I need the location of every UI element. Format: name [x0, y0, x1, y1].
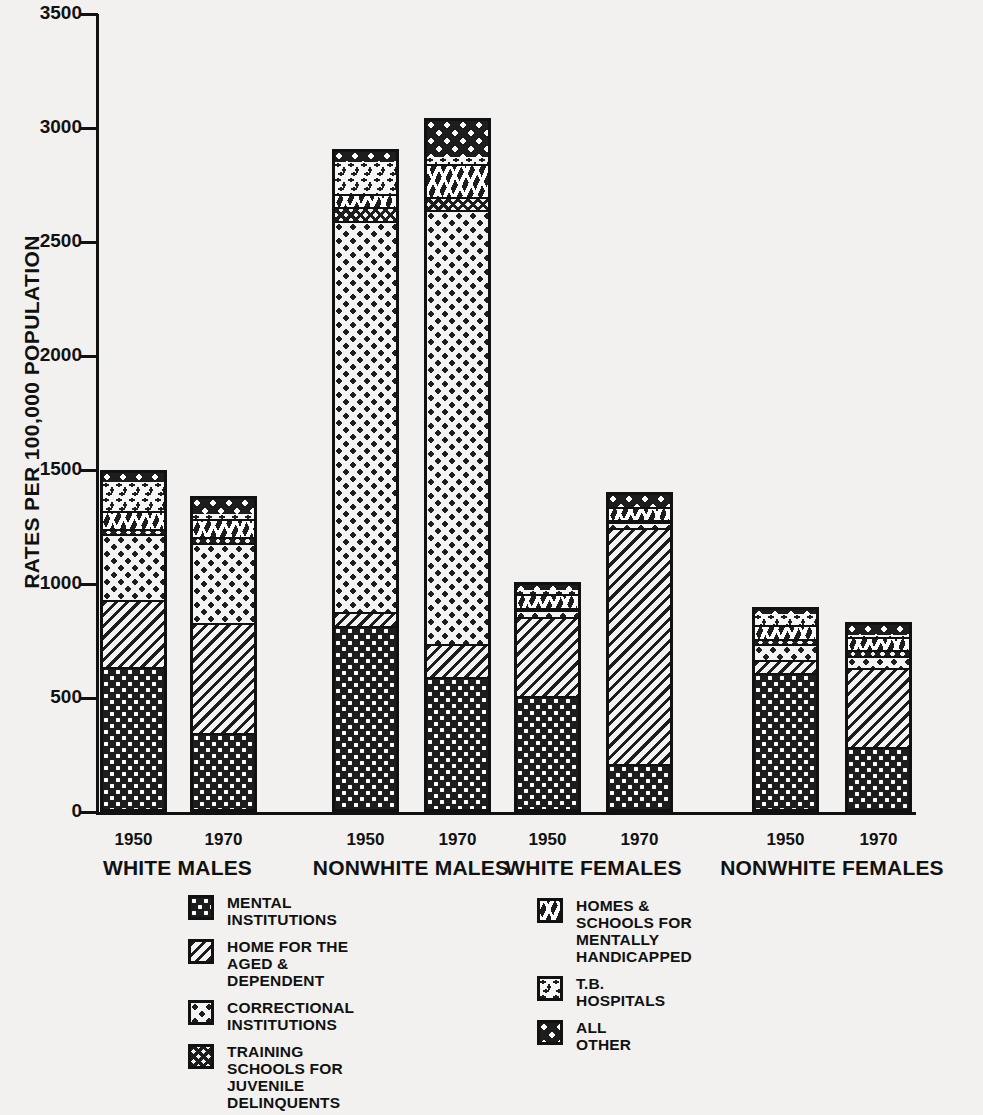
bar-segment-mental — [335, 628, 396, 812]
bar-nonwhite-females-1970 — [845, 622, 912, 812]
y-tick-label: 2500 — [40, 230, 82, 252]
bar-segment-mental — [427, 679, 488, 812]
bar-segment-all — [427, 121, 488, 157]
bar-segment-correctional — [755, 646, 816, 662]
y-tick-label: 2000 — [40, 344, 82, 366]
bar-white-females-1950 — [514, 582, 581, 812]
bar-segment-correctional — [427, 212, 488, 646]
bar-segment-all — [848, 625, 909, 635]
y-axis-title: RATES PER 100,000 POPULATION — [20, 192, 44, 632]
legend-label: TRAINING SCHOOLS FOR JUVENILE DELINQUENT… — [227, 1042, 354, 1111]
bar-segment-aged — [609, 530, 670, 766]
legend-swatch-correctional-icon — [188, 1000, 214, 1025]
legend-item[interactable]: ALL OTHER — [537, 1018, 692, 1053]
bar-segment-training — [335, 209, 396, 224]
bar-segment-mental — [193, 735, 254, 812]
y-tick-label: 1000 — [40, 572, 82, 594]
legend-swatch-tb-icon — [537, 976, 563, 1001]
bar-segment-correctional — [517, 612, 578, 619]
bar-segment-all — [609, 495, 670, 508]
bar-segment-homes — [755, 627, 816, 641]
bar-segment-training — [427, 199, 488, 212]
x-year-label: 1970 — [177, 830, 270, 850]
bar-segment-all — [335, 152, 396, 162]
bar-segment-homes — [848, 639, 909, 652]
legend-item[interactable]: HOME FOR THE AGED & DEPENDENT — [188, 937, 354, 989]
legend-swatch-training-icon — [188, 1044, 214, 1069]
legend-item[interactable]: HOMES & SCHOOLS FOR MENTALLY HANDICAPPED — [537, 896, 692, 965]
bar-white-males-1950 — [100, 470, 167, 812]
legend-swatch-mental-icon — [188, 895, 214, 920]
x-year-label: 1970 — [593, 830, 686, 850]
legend-label: MENTAL INSTITUTIONS — [227, 893, 337, 928]
y-tick-label: 500 — [50, 686, 82, 708]
bar-segment-aged — [103, 602, 164, 669]
y-tick-label: 1500 — [40, 458, 82, 480]
legend-swatch-homes-icon — [537, 898, 563, 923]
y-tick-label: 3000 — [40, 116, 82, 138]
bar-nonwhite-males-1950 — [332, 149, 399, 812]
bar-segment-tb — [755, 614, 816, 627]
bar-segment-all — [103, 473, 164, 482]
bar-segment-aged — [848, 670, 909, 749]
bar-segment-tb — [193, 514, 254, 521]
y-axis-spine — [96, 14, 99, 815]
bar-segment-mental — [609, 766, 670, 812]
bar-segment-correctional — [193, 545, 254, 625]
bar-segment-mental — [848, 749, 909, 812]
bar-segment-homes — [335, 196, 396, 209]
bar-segment-homes — [517, 596, 578, 610]
legend-label: ALL OTHER — [576, 1018, 631, 1053]
x-year-label: 1950 — [501, 830, 594, 850]
bar-segment-mental — [103, 669, 164, 812]
bar-segment-aged — [517, 619, 578, 698]
x-year-label: 1950 — [87, 830, 180, 850]
x-year-label: 1950 — [319, 830, 412, 850]
legend-item[interactable]: T.B. HOSPITALS — [537, 974, 692, 1009]
x-year-label: 1970 — [832, 830, 925, 850]
bar-segment-aged — [427, 646, 488, 679]
legend-label: CORRECTIONAL INSTITUTIONS — [227, 998, 354, 1033]
bar-segment-homes — [103, 513, 164, 531]
bar-segment-homes — [609, 509, 670, 522]
bar-segment-correctional — [848, 658, 909, 671]
x-year-label: 1950 — [739, 830, 832, 850]
legend-item[interactable]: MENTAL INSTITUTIONS — [188, 893, 354, 928]
legend-label: HOMES & SCHOOLS FOR MENTALLY HANDICAPPED — [576, 896, 692, 965]
bar-segment-aged — [335, 614, 396, 628]
bar-nonwhite-females-1950 — [752, 607, 819, 812]
bar-segment-aged — [755, 662, 816, 675]
bar-nonwhite-males-1970 — [424, 118, 491, 812]
legend-swatch-aged-icon — [188, 939, 214, 964]
legend-column-right: HOMES & SCHOOLS FOR MENTALLY HANDICAPPED… — [537, 896, 692, 1062]
x-year-label: 1970 — [411, 830, 504, 850]
bar-segment-homes — [193, 521, 254, 539]
y-tick-label: 3500 — [40, 2, 82, 24]
legend-label: HOME FOR THE AGED & DEPENDENT — [227, 937, 354, 989]
bar-segment-homes — [427, 166, 488, 199]
legend-swatch-all-icon — [537, 1020, 563, 1045]
legend-item[interactable]: TRAINING SCHOOLS FOR JUVENILE DELINQUENT… — [188, 1042, 354, 1111]
bar-segment-aged — [193, 625, 254, 736]
bar-segment-all — [193, 499, 254, 514]
bar-segment-mental — [517, 698, 578, 812]
bar-segment-correctional — [103, 536, 164, 602]
bar-segment-correctional — [335, 223, 396, 614]
legend-item[interactable]: CORRECTIONAL INSTITUTIONS — [188, 998, 354, 1033]
bar-white-males-1970 — [190, 496, 257, 812]
bar-segment-tb — [427, 157, 488, 166]
bar-segment-tb — [103, 482, 164, 513]
bar-segment-mental — [755, 675, 816, 812]
legend-label: T.B. HOSPITALS — [576, 974, 665, 1009]
x-group-label: NONWHITE FEMALES — [692, 856, 972, 880]
x-axis-baseline — [96, 812, 916, 815]
bar-white-females-1970 — [606, 492, 673, 812]
bar-segment-tb — [335, 162, 396, 196]
legend-column-left: MENTAL INSTITUTIONSHOME FOR THE AGED & D… — [188, 893, 354, 1115]
